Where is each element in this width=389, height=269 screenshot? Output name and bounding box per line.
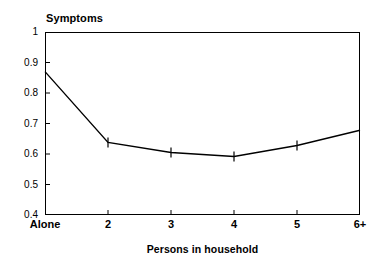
x-axis-tick-label: 2 (78, 218, 138, 230)
x-axis-tick-label-text: 3 (141, 218, 201, 230)
data-point-markers (108, 137, 297, 161)
x-axis-tick-marks (108, 210, 297, 215)
y-axis-tick-label: 0.5 (0, 180, 38, 190)
y-axis-tick-label-text: 0.9 (0, 58, 38, 68)
x-axis-title: Persons in household (45, 243, 360, 255)
y-axis-tick-label-text: 0.6 (0, 149, 38, 159)
y-axis-tick-label: 0.6 (0, 149, 38, 159)
y-axis-tick-label: 0.7 (0, 119, 38, 129)
x-axis-tick-label-text: 2 (78, 218, 138, 230)
y-axis-tick-label: 1 (0, 27, 38, 37)
x-axis-tick-label-text: 5 (267, 218, 327, 230)
x-axis-tick-label: Alone (15, 218, 75, 230)
x-axis-tick-label: 6+ (330, 218, 389, 230)
y-axis-tick-label-text: 1 (0, 27, 38, 37)
x-axis-tick-label-text: 4 (204, 218, 264, 230)
x-axis-tick-label-text: 6+ (330, 218, 389, 230)
data-series-line (45, 72, 360, 157)
y-axis-tick-label-text: 0.5 (0, 180, 38, 190)
y-axis-tick-marks (45, 63, 50, 185)
x-axis-tick-label: 3 (141, 218, 201, 230)
chart-container: Symptoms 0.40.50.60.70.80.91 Alone23456+… (0, 0, 389, 269)
x-axis-tick-label-text: Alone (15, 218, 75, 230)
y-axis-tick-label: 0.9 (0, 58, 38, 68)
y-axis-tick-label-text: 0.8 (0, 88, 38, 98)
y-axis-tick-label-text: 0.7 (0, 119, 38, 129)
y-axis-tick-label: 0.8 (0, 88, 38, 98)
x-axis-tick-label: 5 (267, 218, 327, 230)
x-axis-tick-label: 4 (204, 218, 264, 230)
